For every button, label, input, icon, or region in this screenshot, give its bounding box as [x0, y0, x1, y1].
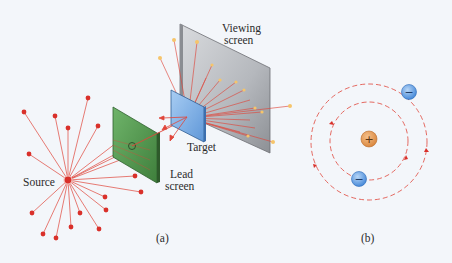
label-lead-screen-line1: Lead — [165, 168, 194, 180]
lead-screen — [113, 107, 160, 183]
label-viewing-screen-line2: screen — [222, 34, 261, 46]
caption-a: (a) — [156, 232, 169, 244]
label-viewing-screen-line1: Viewing — [222, 22, 261, 34]
label-lead-screen-line2: screen — [165, 180, 194, 192]
electron-minus-sign-outer: − — [404, 86, 413, 99]
electron-minus-sign-inner: − — [354, 173, 363, 186]
label-source: Source — [23, 176, 55, 188]
label-lead-screen: Lead screen — [165, 168, 194, 192]
source-icon — [64, 176, 72, 184]
caption-b: (b) — [361, 232, 374, 244]
atom-model: + − − — [311, 84, 429, 200]
nucleus-plus-sign: + — [364, 133, 373, 146]
label-target: Target — [187, 141, 216, 153]
label-viewing-screen: Viewing screen — [222, 22, 261, 46]
